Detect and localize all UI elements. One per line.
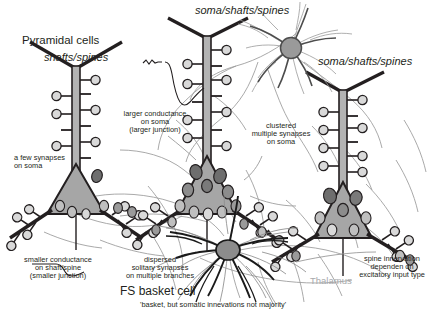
label-thalamus: Thalamus bbox=[310, 276, 352, 286]
annotation-clustered-multiple-synapses: clustered multiple synapses on soma bbox=[252, 122, 311, 146]
annotation-larger-conductance: larger conductance on soma (larger junct… bbox=[124, 110, 187, 134]
annotation-dispersed-solitary-synapses: dispersed solitary synapses on multiple … bbox=[126, 256, 194, 280]
annotation-few-synapses-on-soma: a few synapses on soma bbox=[14, 154, 65, 170]
label-shafts-spines: shafts/spines bbox=[44, 52, 108, 64]
label-soma-shafts-spines-top: soma/shafts/spines bbox=[195, 5, 289, 17]
label-soma-shafts-spines-right: soma/shafts/spines bbox=[318, 56, 412, 68]
page-title-pyramidal-cells: Pyramidal cells bbox=[22, 34, 99, 46]
neuron-circuit-diagram: Pyramidal cells shafts/spines soma/shaft… bbox=[0, 0, 445, 315]
label-basket-cell-subtitle: 'basket, but somatic innevations not maj… bbox=[140, 301, 286, 309]
pyramidal-cell-left bbox=[5, 42, 145, 252]
annotation-smaller-conductance: smaller conductance on shaft/spine (smal… bbox=[24, 256, 92, 280]
label-fs-basket-cell: FS basket cell bbox=[120, 285, 195, 298]
annotation-spine-innervation: spine innervation dependen on excitatory… bbox=[359, 255, 425, 279]
conductance-trace-large bbox=[143, 60, 204, 105]
